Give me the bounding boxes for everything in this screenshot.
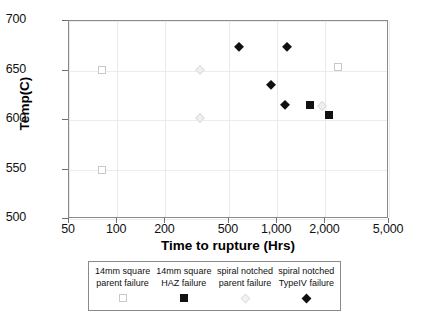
gridline-vertical: [69, 21, 70, 217]
data-point-filled-diamond: [234, 42, 244, 52]
gridline-horizontal: [69, 120, 387, 121]
data-point-filled-diamond: [280, 100, 290, 110]
x-tick-label: 200: [154, 222, 174, 236]
legend-entry: 14mm squareHAZ failure: [153, 266, 214, 305]
data-point-faint-diamond: [195, 65, 205, 75]
x-tick-label: 500: [218, 222, 238, 236]
legend-marker-faint-diamond-icon: [240, 293, 250, 303]
legend-marker-filled-diamond-icon: [301, 293, 311, 303]
legend-label-line1: spiral notched: [276, 266, 337, 278]
gridline-vertical: [117, 21, 118, 217]
gridline-vertical: [229, 21, 230, 217]
y-tick-label: 500: [6, 210, 26, 224]
y-tick-label: 550: [6, 161, 26, 175]
legend-marker-filled-square-icon: [180, 294, 188, 302]
gridline-vertical: [277, 21, 278, 217]
legend-label-line1: 14mm square: [153, 266, 214, 278]
data-point-open-square: [98, 66, 106, 74]
data-point-filled-diamond: [282, 42, 292, 52]
x-tick-label: 50: [61, 222, 75, 236]
y-tick-label: 650: [6, 62, 26, 76]
chart-legend: 14mm squareparent failure14mm squareHAZ …: [88, 261, 341, 311]
legend-swatch-wrap: [215, 291, 276, 305]
legend-label-line2: HAZ failure: [153, 278, 214, 290]
x-tick-label: 5,000: [373, 222, 403, 236]
data-point-filled-diamond: [266, 80, 276, 90]
legend-label-line1: 14mm square: [92, 266, 153, 278]
x-tick-label: 2,000: [309, 222, 339, 236]
legend-label-line2: TypeIV failure: [276, 278, 337, 290]
gridline-horizontal: [69, 71, 387, 72]
legend-entry: spiral notchedparent failure: [215, 266, 276, 305]
legend-label-line2: parent failure: [215, 278, 276, 290]
legend-label-line2: parent failure: [92, 278, 153, 290]
legend-swatch-wrap: [276, 291, 337, 305]
y-tick-label: 600: [6, 111, 26, 125]
data-point-faint-diamond: [195, 113, 205, 123]
legend-label-line1: spiral notched: [215, 266, 276, 278]
y-tick-label: 700: [6, 12, 26, 26]
legend-entry: spiral notchedTypeIV failure: [276, 266, 337, 305]
legend-swatch-wrap: [92, 291, 153, 305]
plot-area: [68, 20, 388, 218]
x-tick-label: 1,000: [261, 222, 291, 236]
x-tick-label: 100: [106, 222, 126, 236]
data-point-open-square: [334, 63, 342, 71]
data-point-filled-square: [325, 111, 333, 119]
data-point-filled-square: [306, 101, 314, 109]
gridline-vertical: [389, 21, 390, 217]
legend-entry: 14mm squareparent failure: [92, 266, 153, 305]
gridline-horizontal: [69, 21, 387, 22]
legend-marker-open-square-icon: [119, 294, 127, 302]
gridline-horizontal: [69, 170, 387, 171]
legend-swatch-wrap: [153, 291, 214, 305]
data-point-open-square: [98, 166, 106, 174]
x-axis-title: Time to rupture (Hrs): [68, 238, 388, 253]
gridline-vertical: [165, 21, 166, 217]
rupture-time-scatter-chart: Temp(C) 500550600650700 501002005001,000…: [0, 0, 422, 326]
